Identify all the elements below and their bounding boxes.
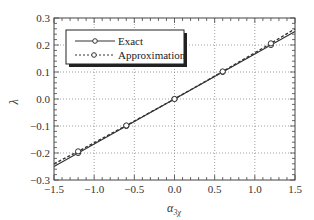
- data-point-marker-icon: [76, 149, 81, 154]
- y-tick-label: 0.3: [36, 12, 50, 24]
- legend-marker-icon: [93, 39, 98, 44]
- data-point-marker-icon: [172, 96, 177, 101]
- x-tick-label: 1.5: [288, 183, 302, 195]
- data-point-marker-icon: [268, 41, 273, 46]
- legend-marker-icon: [92, 53, 97, 58]
- x-axis-title-sub: 3χ: [172, 208, 181, 217]
- x-tick-labels: −1.5−1.0−0.50.00.51.01.5: [44, 183, 302, 195]
- x-tick-label: 0.5: [208, 183, 222, 195]
- x-tick-label: −0.5: [124, 183, 144, 195]
- x-tick-label: −1.0: [84, 183, 104, 195]
- x-tick-label: 0.0: [168, 183, 182, 195]
- y-tick-labels: −0.3−0.2−0.10.00.10.20.3: [30, 12, 50, 186]
- legend: Exact Approximation: [66, 30, 187, 67]
- legend-label-exact: Exact: [118, 35, 143, 47]
- data-point-marker-icon: [220, 69, 225, 74]
- y-tick-label: −0.1: [30, 120, 50, 132]
- x-tick-label: 1.0: [248, 183, 262, 195]
- chart: −1.5−1.0−0.50.00.51.01.5 −0.3−0.2−0.10.0…: [0, 0, 314, 220]
- y-tick-label: −0.3: [30, 174, 50, 186]
- y-tick-label: 0.2: [36, 39, 50, 51]
- y-tick-label: 0.0: [36, 93, 50, 105]
- y-tick-label: 0.1: [36, 66, 50, 78]
- data-point-marker-icon: [124, 123, 129, 128]
- x-axis-title: α3χ: [167, 201, 181, 217]
- y-axis-title: λ: [7, 99, 21, 105]
- y-tick-label: −0.2: [30, 147, 50, 159]
- legend-label-approximation: Approximation: [118, 49, 186, 61]
